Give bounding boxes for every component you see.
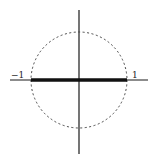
diagram-canvas: −1 1: [0, 0, 154, 158]
label-one: 1: [132, 70, 138, 80]
label-minus-one: −1: [11, 70, 24, 80]
